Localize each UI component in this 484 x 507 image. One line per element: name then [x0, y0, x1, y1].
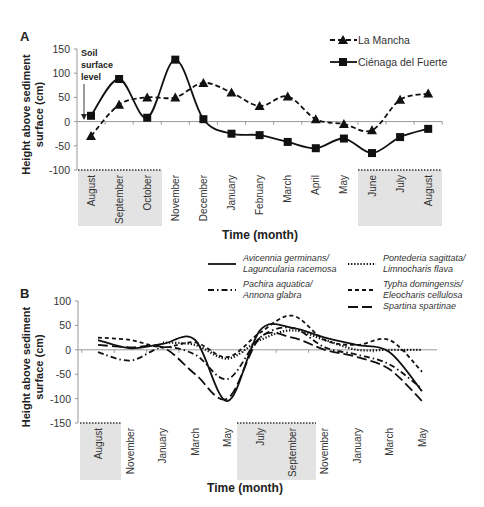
- x-tick-label: February: [254, 175, 265, 215]
- x-tick-label: December: [198, 174, 209, 221]
- x-tick-label: October: [142, 174, 153, 210]
- y-tick-label: -50: [56, 368, 71, 380]
- data-point-triangle: [311, 114, 321, 123]
- x-tick-label: August: [86, 175, 97, 206]
- x-tick-label: June: [367, 175, 378, 197]
- series-line-3: [98, 316, 422, 372]
- x-tick-label: March: [282, 175, 293, 203]
- legend-label-0: Avicennia germinans/: [242, 253, 330, 263]
- x-tick-label: January: [226, 175, 237, 211]
- data-point-square: [228, 130, 236, 138]
- legend-label-0: La Mancha: [358, 34, 410, 46]
- x-tick-label: September: [114, 174, 125, 224]
- panel-label-a: A: [20, 29, 30, 44]
- legend-label-1: Annona glabra: [242, 290, 302, 300]
- y-tick-label: -100: [49, 164, 70, 176]
- figure: 150100500-50-100AugustSeptemberOctoberNo…: [0, 0, 484, 507]
- x-tick-label: July: [255, 428, 266, 446]
- y-tick-label: 100: [53, 295, 71, 307]
- y-axis-title-line2: surface (cm): [33, 81, 45, 147]
- legend-label-3: Eleocharis cellulosa: [383, 290, 463, 300]
- x-tick-label: November: [319, 427, 330, 474]
- x-tick-label: January: [352, 428, 363, 464]
- data-point-square: [143, 114, 151, 122]
- data-point-square: [171, 56, 179, 64]
- x-tick-label: August: [423, 175, 434, 206]
- y-tick-label: 100: [52, 67, 70, 79]
- x-tick-label: November: [125, 427, 136, 474]
- y-tick-label: 50: [59, 319, 71, 331]
- data-point-square: [115, 75, 123, 83]
- x-axis-title: Time (month): [207, 481, 283, 495]
- data-point-triangle: [198, 78, 208, 87]
- annotation-soil-surface-text: Soil: [81, 48, 98, 58]
- y-tick-label: 50: [58, 91, 70, 103]
- data-point-triangle: [170, 92, 180, 101]
- x-axis-title: Time (month): [222, 228, 298, 242]
- legend-label-0: Laguncularia racemosa: [243, 264, 337, 274]
- x-tick-label: May: [417, 428, 428, 447]
- data-point-square: [368, 149, 376, 157]
- x-tick-label: September: [287, 427, 298, 477]
- x-tick-label: August: [93, 428, 104, 459]
- x-tick-label: May: [338, 175, 349, 194]
- legend-label-2: Pontederia sagittata/: [383, 253, 467, 263]
- x-tick-label: March: [190, 428, 201, 456]
- shaded-period: [237, 423, 316, 480]
- legend-marker-square: [339, 58, 347, 66]
- y-axis-title-line2: surface (cm): [33, 334, 45, 400]
- legend-label-1: Ciénaga del Fuerte: [358, 56, 447, 68]
- y-tick-label: 150: [52, 43, 70, 55]
- data-point-square: [256, 131, 264, 139]
- x-tick-label: May: [222, 428, 233, 447]
- y-tick-label: 0: [65, 344, 71, 356]
- series-line-1: [98, 327, 422, 388]
- series-line-4: [98, 333, 422, 401]
- legend-label-1: Pachira aquatica/: [243, 279, 314, 289]
- annotation-arrow-head: [81, 114, 87, 120]
- y-tick-label: -100: [50, 393, 71, 405]
- y-tick-label: 0: [64, 116, 70, 128]
- y-tick-label: -150: [50, 417, 71, 429]
- annotation-soil-surface-text: level: [81, 72, 101, 82]
- data-point-square: [87, 112, 95, 120]
- panel-label-b: B: [20, 286, 29, 301]
- data-point-square: [284, 138, 292, 146]
- data-point-triangle: [227, 88, 237, 97]
- panel-a: 150100500-50-100AugustSeptemberOctoberNo…: [20, 29, 447, 242]
- data-point-square: [199, 115, 207, 123]
- data-point-triangle: [395, 95, 405, 104]
- legend-label-4: Spartina spartinae: [383, 301, 456, 311]
- data-point-triangle: [423, 89, 433, 98]
- x-tick-label: November: [170, 174, 181, 221]
- panel-b: 100500-50-100-150AugustNovemberJanuaryMa…: [20, 253, 467, 495]
- data-point-triangle: [114, 100, 124, 109]
- data-point-square: [312, 144, 320, 152]
- y-axis-title-line1: Height above sediment: [20, 306, 32, 427]
- x-tick-label: January: [157, 428, 168, 464]
- legend-label-2: Limnocharis flava: [383, 264, 453, 274]
- data-point-triangle: [86, 131, 96, 140]
- y-axis-title-line1: Height above sediment: [20, 54, 32, 175]
- data-point-square: [340, 135, 348, 143]
- annotation-soil-surface-text: surface: [81, 60, 113, 70]
- legend-label-3: Typha domingensis/: [383, 279, 464, 289]
- x-tick-label: July: [395, 175, 406, 193]
- data-point-triangle: [367, 125, 377, 134]
- x-tick-label: April: [310, 175, 321, 195]
- y-tick-label: -50: [55, 140, 70, 152]
- data-point-square: [396, 133, 404, 141]
- x-tick-label: March: [384, 428, 395, 456]
- data-point-square: [424, 125, 432, 133]
